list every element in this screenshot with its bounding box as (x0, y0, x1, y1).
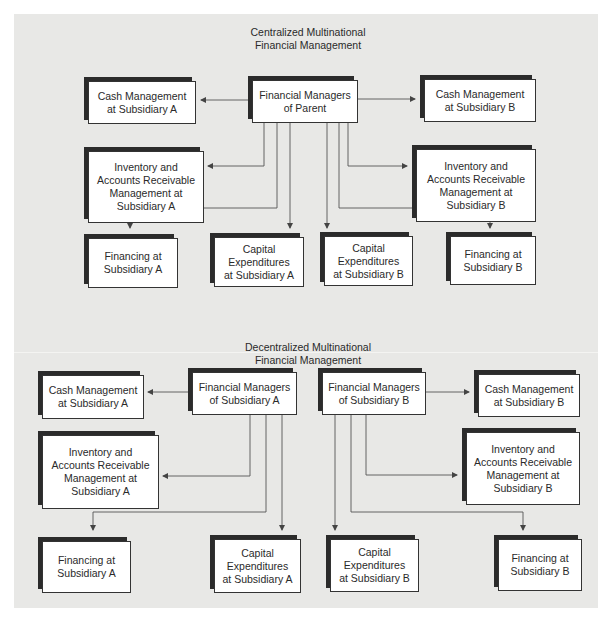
box-cash-management-subsidiary-b: Cash Managementat Subsidiary B (424, 79, 536, 122)
box-text: at Subsidiary A (98, 103, 187, 116)
box-text: Capital (333, 242, 404, 255)
box-inventory-ar-subsidiary-a: Inventory andAccounts ReceivableManageme… (88, 151, 204, 223)
box-text: of Subsidiary A (199, 394, 291, 407)
box-inventory-ar-subsidiary-b: Inventory andAccounts ReceivableManageme… (416, 149, 536, 222)
box-text: Cash Management (98, 90, 187, 103)
box-financing-subsidiary-b: Financing atSubsidiary B (450, 236, 536, 285)
box-text: Expenditures (339, 559, 410, 572)
box-text: Subsidiary B (427, 199, 525, 212)
box-text: Financing at (104, 250, 162, 263)
box-cash-management-subsidiary-a: Cash Managementat Subsidiary A (88, 81, 196, 124)
box-text: Subsidiary A (97, 200, 195, 213)
box-financial-managers-of-subsidiary-b: Financial Managersof Subsidiary B (322, 372, 426, 415)
box-text: at Subsidiary B (485, 396, 574, 409)
box-capital-expenditures-subsidiary-a: CapitalExpendituresat Subsidiary A (214, 539, 301, 593)
box-text: Financial Managers (328, 381, 420, 394)
box-text: Cash Management (436, 88, 525, 101)
box-text: Financing at (511, 552, 570, 565)
title-line: Financial Management (218, 39, 398, 52)
box-text: at Subsidiary B (339, 572, 410, 585)
box-text: Accounts Receivable (97, 174, 195, 187)
box-text: at Subsidiary A (49, 397, 138, 410)
box-text: Accounts Receivable (474, 456, 572, 469)
box-text: Financing at (464, 248, 523, 261)
box-text: Subsidiary B (474, 482, 572, 495)
box-text: at Subsidiary B (436, 101, 525, 114)
box-text: Inventory and (97, 161, 195, 174)
box-inventory-ar-subsidiary-a: Inventory andAccounts ReceivableManageme… (42, 435, 159, 509)
box-financing-subsidiary-a: Financing atSubsidiary A (88, 238, 178, 288)
box-capital-expenditures-subsidiary-b: CapitalExpendituresat Subsidiary B (324, 236, 413, 286)
box-text: Cash Management (485, 383, 574, 396)
box-text: at Subsidiary B (333, 268, 404, 281)
title-line: Decentralized Multinational (218, 341, 398, 354)
box-text: Inventory and (427, 160, 525, 173)
box-text: Accounts Receivable (51, 459, 149, 472)
centralized-title: Centralized Multinational Financial Mana… (218, 26, 398, 52)
box-text: Subsidiary A (104, 263, 162, 276)
box-cash-management-subsidiary-b: Cash Managementat Subsidiary B (478, 374, 580, 417)
box-text: Financial Managers (199, 381, 291, 394)
box-text: at Subsidiary A (222, 573, 292, 586)
box-text: Management at (474, 469, 572, 482)
box-text: Accounts Receivable (427, 173, 525, 186)
box-text: Management at (427, 186, 525, 199)
box-inventory-ar-subsidiary-b: Inventory andAccounts ReceivableManageme… (466, 432, 580, 505)
box-financing-subsidiary-a: Financing atSubsidiary A (42, 541, 131, 593)
box-financial-managers-of-parent: Financial Managersof Parent (252, 80, 358, 123)
box-text: Management at (97, 187, 195, 200)
box-text: Expenditures (222, 560, 292, 573)
title-line: Financial Management (218, 354, 398, 367)
box-text: Capital (222, 547, 292, 560)
box-text: Financial Managers (259, 89, 351, 102)
title-line: Centralized Multinational (218, 26, 398, 39)
box-text: Financing at (57, 554, 115, 567)
box-text: Management at (51, 472, 149, 485)
box-financing-subsidiary-b: Financing atSubsidiary B (498, 539, 582, 591)
box-text: Cash Management (49, 384, 138, 397)
box-text: Subsidiary B (511, 565, 570, 578)
box-capital-expenditures-subsidiary-a: CapitalExpendituresat Subsidiary A (214, 237, 304, 287)
box-text: Inventory and (51, 446, 149, 459)
box-cash-management-subsidiary-a: Cash Managementat Subsidiary A (42, 375, 144, 419)
box-capital-expenditures-subsidiary-b: CapitalExpendituresat Subsidiary B (330, 539, 419, 592)
box-text: Capital (339, 546, 410, 559)
box-text: Expenditures (224, 256, 294, 269)
box-text: of Parent (259, 102, 351, 115)
decentralized-title: Decentralized Multinational Financial Ma… (218, 341, 398, 367)
box-financial-managers-of-subsidiary-a: Financial Managersof Subsidiary A (192, 372, 297, 415)
box-text: Expenditures (333, 255, 404, 268)
box-text: Inventory and (474, 443, 572, 456)
box-text: Subsidiary A (57, 567, 115, 580)
box-text: Subsidiary B (464, 261, 523, 274)
box-text: of Subsidiary B (328, 394, 420, 407)
box-text: Capital (224, 243, 294, 256)
box-text: at Subsidiary A (224, 269, 294, 282)
box-text: Subsidiary A (51, 485, 149, 498)
